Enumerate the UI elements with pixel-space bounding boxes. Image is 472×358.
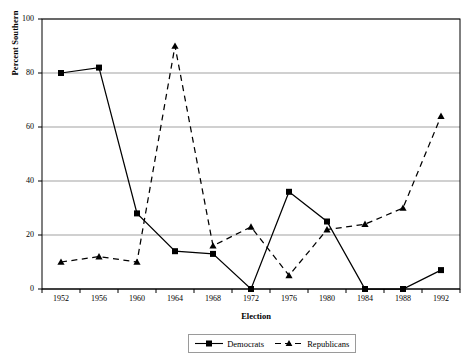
data-point-democrats-1960: [134, 210, 140, 216]
legend-entry-republicans: Republicans: [275, 338, 349, 349]
data-point-republicans-1956: [95, 253, 102, 259]
plot-frame: [42, 19, 460, 289]
data-point-democrats-1972: [248, 286, 254, 292]
x-tick-label: 1988: [383, 295, 423, 303]
data-point-republicans-1992: [437, 113, 444, 119]
x-tick-label: 1960: [117, 295, 157, 303]
data-point-democrats-1980: [324, 219, 330, 225]
data-point-democrats-1988: [400, 286, 406, 292]
series-line-democrats: [61, 68, 441, 289]
data-point-republicans-1972: [247, 223, 254, 229]
data-point-democrats-1976: [286, 189, 292, 195]
x-tick-label: 1976: [269, 295, 309, 303]
data-point-republicans-1964: [171, 42, 178, 48]
x-tick-label: 1964: [155, 295, 195, 303]
x-tick-label: 1984: [345, 295, 385, 303]
data-point-democrats-1964: [172, 248, 178, 254]
plot-area: [0, 0, 472, 358]
x-tick-label: 1980: [307, 295, 347, 303]
data-point-democrats-1952: [58, 70, 64, 76]
x-tick-label: 1968: [193, 295, 233, 303]
data-point-democrats-1984: [362, 286, 368, 292]
series-line-republicans: [61, 46, 441, 276]
legend-marker-square-icon: [195, 339, 223, 348]
x-tick-label: 1956: [79, 295, 119, 303]
data-point-democrats-1968: [210, 251, 216, 257]
x-axis-title: Election: [40, 311, 472, 321]
chart-container: Percent Southern 020406080100 1952195619…: [0, 0, 472, 358]
legend-label-republicans: Republicans: [307, 339, 349, 349]
legend-entry-democrats: Democrats: [195, 338, 264, 349]
data-point-republicans-1968: [209, 242, 216, 248]
x-tick-label: 1992: [421, 295, 461, 303]
chart-legend: Democrats Republicans: [188, 334, 356, 353]
data-point-democrats-1956: [96, 65, 102, 71]
x-tick-label: 1972: [231, 295, 271, 303]
data-point-democrats-1992: [438, 267, 444, 273]
x-tick-label: 1952: [41, 295, 81, 303]
legend-label-democrats: Democrats: [227, 339, 264, 349]
legend-marker-triangle-icon: [275, 339, 303, 348]
data-point-republicans-1988: [399, 204, 406, 210]
